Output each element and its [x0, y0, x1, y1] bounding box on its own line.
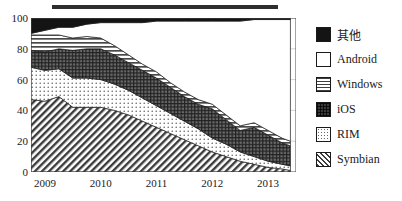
y-axis-tick-label: 100 [2, 13, 28, 24]
y-axis: 020406080100 [0, 0, 28, 201]
title-rule [52, 5, 278, 9]
legend-item-label: iOS [337, 102, 356, 117]
x-axis-tick-label: 2011 [137, 178, 177, 189]
legend-item-symbian[interactable]: Symbian [316, 147, 402, 172]
legend-item-other[interactable]: 其他 [316, 22, 402, 47]
legend-swatch-android [316, 52, 331, 67]
x-axis: 20092010201120122013 [31, 176, 296, 196]
legend-item-label: RIM [337, 127, 360, 142]
y-axis-tick-label: 40 [2, 105, 28, 116]
legend-item-label: Windows [337, 77, 383, 92]
legend-swatch-ios [316, 102, 331, 117]
plot-area [31, 18, 296, 172]
legend-swatch-windows [316, 77, 331, 92]
y-axis-tick-label: 0 [2, 167, 28, 178]
legend-item-rim[interactable]: RIM [316, 122, 402, 147]
legend-item-windows[interactable]: Windows [316, 72, 402, 97]
stacked-area-plot [31, 18, 296, 172]
legend-swatch-symbian [316, 152, 331, 167]
x-axis-tick-label: 2010 [81, 178, 121, 189]
x-axis-tick-label: 2009 [25, 178, 65, 189]
legend-swatch-rim [316, 127, 331, 142]
legend-item-label: Android [337, 52, 377, 67]
chart-legend: 其他AndroidWindowsiOSRIMSymbian [316, 22, 402, 172]
area-series [31, 18, 290, 172]
x-axis-tick-label: 2013 [248, 178, 288, 189]
legend-item-label: Symbian [337, 152, 380, 167]
y-axis-tick-label: 80 [2, 44, 28, 55]
y-axis-tick-label: 20 [2, 136, 28, 147]
chart-figure: 020406080100 [0, 0, 402, 201]
x-axis-tick-label: 2012 [192, 178, 232, 189]
legend-item-ios[interactable]: iOS [316, 97, 402, 122]
legend-item-label: 其他 [337, 26, 361, 43]
legend-item-android[interactable]: Android [316, 47, 402, 72]
legend-swatch-other [316, 27, 331, 42]
y-axis-tick-label: 60 [2, 75, 28, 86]
